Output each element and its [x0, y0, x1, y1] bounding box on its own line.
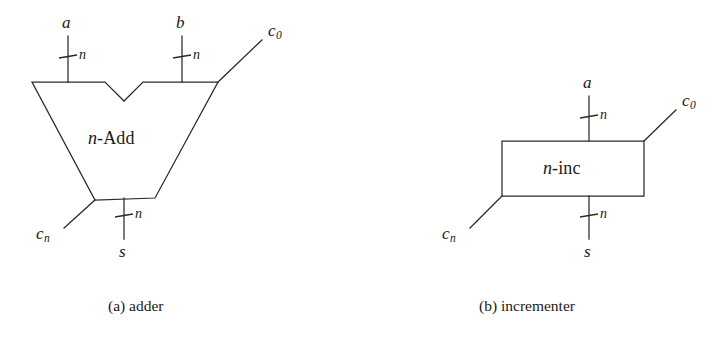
incrementer-label-bus-width-s: n — [600, 207, 607, 221]
incrementer-wire-carry-out — [644, 110, 676, 141]
incrementer-label-carry-in-base: c — [442, 224, 450, 243]
adder-block-label-suffix: -Add — [97, 128, 134, 148]
incrementer-block-label: n-inc — [543, 159, 581, 177]
adder-wire-carry-out — [218, 40, 262, 82]
adder-label-bus-width-s: n — [135, 207, 142, 221]
caption-adder: (a) adder — [108, 297, 164, 315]
adder-block-label-prefix: n — [88, 128, 97, 148]
adder-label-carry-in-subscript: n — [44, 232, 50, 244]
incrementer-label-carry-out: c0 — [682, 92, 695, 109]
incrementer-label-bus-width-a: n — [600, 108, 607, 122]
incrementer-label-a: a — [583, 74, 592, 91]
adder-block-label: n-Add — [88, 129, 135, 147]
adder-label-s: s — [119, 243, 126, 260]
adder-panel-graphics — [32, 36, 262, 239]
adder-label-b: b — [176, 14, 185, 31]
incrementer-block-label-suffix: -inc — [552, 158, 580, 178]
figure-container: a n b n c0 cn n s n-Add a n c0 cn n s n-… — [0, 0, 728, 340]
incrementer-label-carry-out-base: c — [682, 91, 690, 110]
incrementer-label-s: s — [584, 243, 591, 260]
incrementer-label-carry-in-subscript: n — [450, 232, 456, 244]
adder-label-carry-in-base: c — [36, 224, 44, 243]
adder-label-carry-out-base: c — [268, 21, 276, 40]
adder-label-carry-out: c0 — [268, 22, 281, 39]
incrementer-label-carry-in: cn — [442, 225, 455, 242]
circuit-diagram-canvas — [0, 0, 728, 340]
adder-label-carry-in: cn — [36, 225, 49, 242]
adder-label-carry-out-subscript: 0 — [276, 29, 282, 41]
caption-incrementer: (b) incrementer — [479, 297, 575, 315]
adder-label-bus-width-a: n — [79, 48, 86, 62]
incrementer-wire-carry-in — [470, 196, 502, 228]
adder-label-bus-width-b: n — [193, 48, 200, 62]
incrementer-block-label-prefix: n — [543, 158, 552, 178]
adder-label-a: a — [62, 14, 71, 31]
adder-wire-carry-in — [64, 200, 95, 228]
incrementer-label-carry-out-subscript: 0 — [690, 99, 696, 111]
